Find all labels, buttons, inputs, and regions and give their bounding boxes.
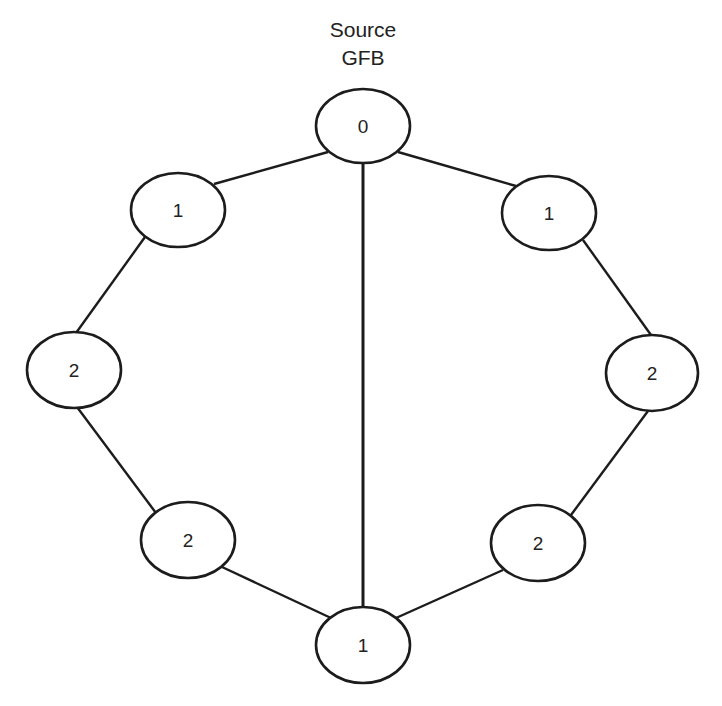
node-label: 0: [358, 116, 369, 137]
node-bottom: 1: [316, 607, 410, 683]
edge-left-mid-left-lower: [77, 407, 156, 513]
node-left-mid: 2: [27, 332, 121, 408]
edge-right-upper-right-mid: [583, 240, 651, 335]
node-label: 2: [533, 533, 544, 554]
edge-right-lower-bottom: [396, 570, 503, 618]
node-label: 2: [183, 530, 194, 551]
ring-graph-diagram: 01122221: [0, 0, 722, 706]
node-label: 2: [69, 360, 80, 381]
node-top: 0: [316, 89, 410, 163]
edge-right-mid-right-lower: [571, 411, 648, 515]
node-right-upper: 1: [502, 176, 596, 250]
node-left-lower: 2: [141, 502, 235, 578]
node-label: 2: [647, 363, 658, 384]
edge-left-upper-left-mid: [76, 237, 145, 333]
edge-top-right-upper: [398, 152, 516, 186]
node-label: 1: [544, 203, 555, 224]
node-right-lower: 2: [491, 505, 585, 581]
node-left-upper: 1: [131, 173, 225, 247]
edge-left-lower-bottom: [222, 567, 331, 618]
node-right-mid: 2: [606, 335, 698, 411]
node-label: 1: [358, 635, 369, 656]
edge-top-left-upper: [214, 152, 328, 184]
node-label: 1: [173, 200, 184, 221]
